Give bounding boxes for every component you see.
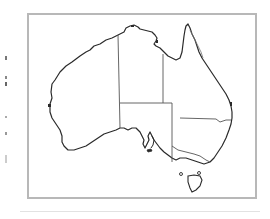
coast-mark-east [230, 102, 232, 106]
state-borders [118, 35, 231, 162]
border-qld-nsw [180, 118, 231, 122]
kangaroo-island [147, 149, 152, 152]
coast-mark-west [48, 104, 51, 107]
flinders-island [198, 172, 201, 175]
coast-mark-north [156, 40, 158, 43]
mainland-outline [50, 24, 232, 164]
australia-map [0, 0, 270, 219]
tasmania-outline [188, 175, 202, 192]
bottom-rule [20, 211, 260, 212]
king-island [180, 173, 183, 176]
coast-mark-tiwi [131, 25, 134, 27]
border-wa [118, 35, 120, 128]
